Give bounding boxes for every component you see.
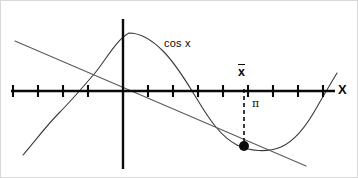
- mean-marker-label-text: x: [238, 64, 245, 79]
- cosine-curve: [23, 33, 337, 155]
- pi-tick-label-text: π: [252, 97, 259, 110]
- plot-canvas: [1, 1, 358, 178]
- x-axis-label: X: [338, 83, 347, 96]
- figure-container: cos x x π X: [0, 0, 358, 178]
- x-axis-label-text: X: [338, 82, 347, 97]
- intersection-point-marker: [239, 141, 249, 151]
- pi-tick-label: π: [252, 98, 259, 109]
- cosine-curve-label: cos x: [164, 38, 191, 49]
- mean-marker-label: x: [238, 64, 245, 79]
- cosine-curve-label-text: cos x: [164, 37, 191, 49]
- secant-line: [15, 41, 306, 166]
